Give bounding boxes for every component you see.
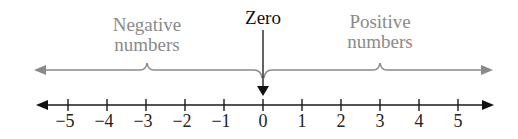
zero-pointer-arrowhead-icon — [257, 86, 269, 96]
zero-label: Zero — [245, 7, 281, 28]
tick-label: −2 — [172, 111, 191, 131]
positive-label-line2: numbers — [347, 31, 412, 52]
tick-label: −5 — [55, 111, 74, 131]
tick-label: 2 — [337, 111, 346, 131]
tick-label: 3 — [376, 111, 385, 131]
negative-label-line1: Negative — [113, 14, 182, 35]
positive-brace-arrow — [264, 63, 482, 78]
tick-label: 5 — [454, 111, 463, 131]
axis-right-arrow-icon — [482, 100, 494, 110]
tick-label: 0 — [259, 111, 268, 131]
tick-label: −3 — [133, 111, 152, 131]
right-arrowhead-icon — [481, 65, 493, 75]
tick-labels: −5−4−3−2−1012345 — [55, 111, 462, 131]
positive-label-line1: Positive — [349, 11, 410, 32]
negative-numbers-label: Negative numbers — [113, 14, 182, 55]
tick-label: 1 — [298, 111, 307, 131]
negative-brace-arrow — [44, 63, 262, 78]
tick-label: −1 — [211, 111, 230, 131]
axis-left-arrow-icon — [36, 100, 48, 110]
number-line-diagram: Negative numbers Zero Positive numbers −… — [0, 0, 518, 139]
tick-label: −4 — [94, 111, 113, 131]
tick-label: 4 — [415, 111, 424, 131]
left-arrowhead-icon — [34, 65, 46, 75]
positive-numbers-label: Positive numbers — [347, 11, 412, 52]
negative-label-line2: numbers — [114, 34, 179, 55]
